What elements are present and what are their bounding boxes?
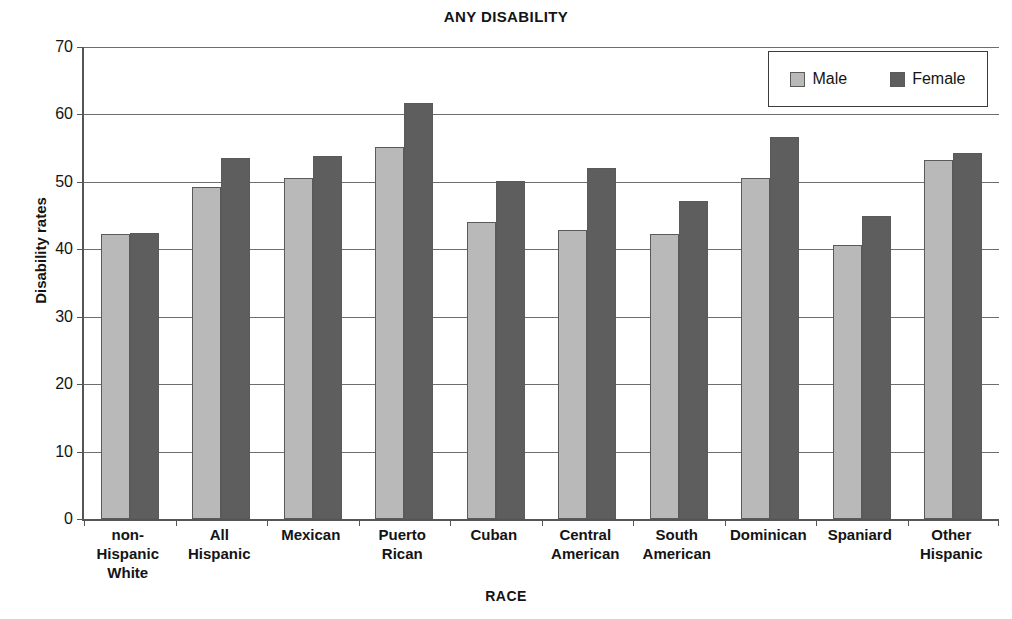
x-axis-label: Mexican <box>265 525 357 544</box>
x-axis-label-line: Hispanic <box>906 544 998 563</box>
y-tick-mark-60 <box>77 114 84 115</box>
x-axis-labels: non-HispanicWhiteAllHispanicMexicanPuert… <box>82 525 997 587</box>
bar-female <box>862 216 891 519</box>
y-tick-label-60: 60 <box>55 105 73 123</box>
bar-male <box>833 245 862 519</box>
x-axis-label-line: Mexican <box>265 525 357 544</box>
x-axis-label-line: Hispanic <box>82 544 174 563</box>
legend-label: Female <box>912 70 965 88</box>
x-tick-mark <box>998 519 999 526</box>
x-axis-label-line: Other <box>906 525 998 544</box>
y-tick-mark-40 <box>77 249 84 250</box>
x-axis-label-line: All <box>174 525 266 544</box>
x-axis-label-line: Puerto <box>357 525 449 544</box>
x-axis-label-line: Cuban <box>448 525 540 544</box>
bar-female <box>770 137 799 519</box>
bar-group <box>359 47 451 519</box>
bar-group <box>725 47 817 519</box>
y-axis-title: Disability rates <box>32 151 49 351</box>
x-axis-label: CentralAmerican <box>540 525 632 563</box>
x-axis-label-line: American <box>631 544 723 563</box>
x-axis-label-line: White <box>82 563 174 582</box>
y-tick-mark-70 <box>77 47 84 48</box>
x-axis-label: non-HispanicWhite <box>82 525 174 582</box>
y-tick-label-40: 40 <box>55 240 73 258</box>
x-axis-label-line: Dominican <box>723 525 815 544</box>
y-tick-label-20: 20 <box>55 375 73 393</box>
bar-male <box>924 160 953 519</box>
y-tick-mark-0 <box>77 519 84 520</box>
x-axis-label: AllHispanic <box>174 525 266 563</box>
bar-group <box>176 47 268 519</box>
x-axis-label-line: Rican <box>357 544 449 563</box>
bar-group <box>908 47 1000 519</box>
y-tick-label-50: 50 <box>55 173 73 191</box>
x-axis-label: Spaniard <box>814 525 906 544</box>
x-axis-label: Cuban <box>448 525 540 544</box>
chart-legend: MaleFemale <box>768 51 988 107</box>
x-axis-label-line: American <box>540 544 632 563</box>
bar-female <box>313 156 342 519</box>
x-axis-label-line: Spaniard <box>814 525 906 544</box>
y-tick-mark-30 <box>77 317 84 318</box>
bar-male <box>650 234 679 519</box>
bar-female <box>130 233 159 519</box>
x-axis-label-line: non- <box>82 525 174 544</box>
bar-group <box>84 47 176 519</box>
bar-male <box>284 178 313 519</box>
y-tick-label-70: 70 <box>55 38 73 56</box>
y-tick-mark-10 <box>77 452 84 453</box>
y-tick-label-30: 30 <box>55 308 73 326</box>
y-tick-label-0: 0 <box>64 510 73 528</box>
bar-female <box>221 158 250 519</box>
y-tick-mark-20 <box>77 384 84 385</box>
bar-female <box>404 103 433 519</box>
bar-female <box>679 201 708 519</box>
bar-male <box>375 147 404 519</box>
bar-group <box>816 47 908 519</box>
bar-group <box>267 47 359 519</box>
x-axis-title: RACE <box>0 588 1012 604</box>
female-swatch <box>890 72 905 87</box>
bar-male <box>467 222 496 519</box>
bar-male <box>558 230 587 519</box>
chart-figure: ANY DISABILITY Disability rates 70605040… <box>0 0 1012 619</box>
x-axis-label-line: Central <box>540 525 632 544</box>
plot-area: 706050403020100 <box>82 47 999 521</box>
male-swatch <box>790 72 805 87</box>
legend-label: Male <box>812 70 847 88</box>
y-tick-mark-50 <box>77 182 84 183</box>
x-axis-label-line: Hispanic <box>174 544 266 563</box>
x-axis-label-line: South <box>631 525 723 544</box>
bar-female <box>496 181 525 519</box>
bar-female <box>953 153 982 519</box>
legend-entry-male: Male <box>790 70 847 88</box>
bar-female <box>587 168 616 519</box>
legend-entry-female: Female <box>890 70 965 88</box>
bar-group <box>542 47 634 519</box>
x-axis-label: PuertoRican <box>357 525 449 563</box>
bar-male <box>101 234 130 519</box>
bar-male <box>192 187 221 519</box>
x-axis-label: Dominican <box>723 525 815 544</box>
bar-series-layer <box>84 47 999 519</box>
x-axis-label: SouthAmerican <box>631 525 723 563</box>
bar-group <box>633 47 725 519</box>
y-tick-label-10: 10 <box>55 443 73 461</box>
bar-group <box>450 47 542 519</box>
x-axis-label: OtherHispanic <box>906 525 998 563</box>
bar-male <box>741 178 770 519</box>
chart-title: ANY DISABILITY <box>0 8 1012 25</box>
